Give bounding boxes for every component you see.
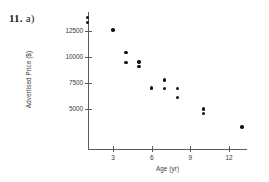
x-tick-label-6: 6 — [144, 154, 160, 161]
data-point — [176, 96, 179, 99]
data-point — [240, 125, 243, 128]
y-tick-label-5000: 5000 — [57, 105, 83, 112]
y-axis-line — [88, 12, 89, 149]
y-tick-5000 — [85, 109, 92, 110]
data-point — [176, 87, 179, 90]
y-axis-title: Advertised Price ($) — [25, 30, 32, 130]
data-point — [202, 107, 205, 110]
x-tick-3 — [113, 146, 114, 152]
y-tick-label-7500: 7500 — [57, 79, 83, 86]
data-point — [86, 21, 89, 24]
x-tick-label-9: 9 — [182, 154, 198, 161]
x-axis-line — [88, 149, 247, 150]
x-tick-9 — [190, 146, 191, 152]
data-point — [111, 28, 114, 31]
x-tick-label-3: 3 — [105, 154, 121, 161]
y-tick-12500 — [85, 31, 92, 32]
data-point — [202, 112, 205, 115]
y-tick-7500 — [85, 83, 92, 84]
y-tick-10000 — [85, 57, 92, 58]
data-point — [163, 78, 166, 81]
data-point — [150, 86, 153, 89]
data-point — [137, 65, 140, 68]
data-point — [124, 61, 127, 64]
x-axis-title: Age (yr) — [88, 165, 247, 172]
data-point — [137, 60, 140, 63]
y-tick-label-10000: 10000 — [57, 53, 83, 60]
x-tick-label-12: 12 — [221, 154, 237, 161]
scatter-plot: 500075001000012500 36912 Advertised Pric… — [0, 0, 269, 182]
data-point — [124, 51, 127, 54]
x-tick-6 — [152, 146, 153, 152]
x-tick-12 — [229, 146, 230, 152]
data-point — [163, 87, 166, 90]
y-tick-label-12500: 12500 — [57, 27, 83, 34]
figure-root: 11. a) 500075001000012500 36912 Advertis… — [0, 0, 269, 182]
